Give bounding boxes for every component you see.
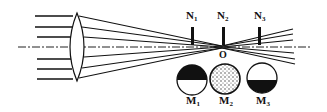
- label-n2: N2: [217, 9, 229, 23]
- diagram-canvas: N1 N2 N3 O M1 M2 M3: [0, 0, 327, 112]
- label-m1: M1: [186, 94, 200, 108]
- knife-edge-n2: [222, 27, 225, 45]
- optics-diagram: N1 N2 N3 O M1 M2 M3: [0, 0, 327, 112]
- label-m3: M3: [256, 94, 270, 108]
- knife-edge-n1: [191, 27, 194, 45]
- screen-m1: [176, 64, 208, 95]
- screen-m3: [246, 63, 278, 96]
- knife-edge-n3: [258, 27, 261, 45]
- label-n1: N1: [186, 9, 198, 23]
- label-m2: M2: [219, 94, 233, 108]
- label-n3: N3: [254, 9, 266, 23]
- convex-lens: [70, 13, 84, 81]
- focus-label-o: O: [219, 49, 227, 60]
- screen-m2: [210, 64, 240, 94]
